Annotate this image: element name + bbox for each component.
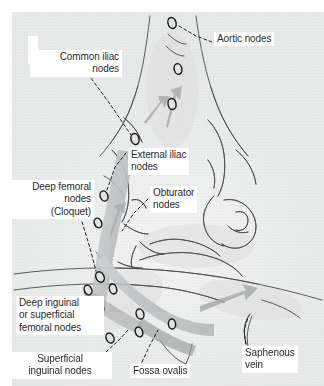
label-external-iliac-nodes: External iliac nodes [128, 148, 189, 175]
leader-common-iliac [88, 74, 131, 135]
lymphatic-drainage-figure: Aortic nodes Common iliac nodes External… [0, 0, 324, 386]
label-saphenous-vein: Saphenous vein [242, 346, 298, 373]
leader-deep-femoral [82, 222, 96, 271]
common-iliac-node-left [130, 132, 141, 146]
label-deep-inguinal-nodes: Deep inguinal or superficial femoral nod… [16, 296, 104, 335]
label-superficial-inguinal-nodes: Superficial inguinal nodes [8, 352, 112, 379]
label-obturator-nodes: Obturator nodes [150, 186, 197, 213]
fossa-ovalis-node [104, 331, 116, 345]
label-common-iliac-nodes: Common iliac nodes [30, 50, 122, 77]
label-deep-femoral-nodes: Deep femoral nodes (Cloquet) [8, 180, 94, 219]
label-fossa-ovalis: Fossa ovalis [130, 364, 190, 378]
label-aortic-nodes: Aortic nodes [214, 32, 274, 46]
aortic-node [166, 16, 178, 30]
